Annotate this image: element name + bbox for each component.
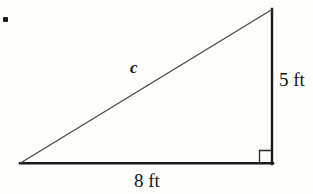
vertical-leg-label: 5 ft <box>279 70 305 89</box>
right-angle-marker <box>260 151 272 163</box>
right-triangle-drawing <box>0 0 313 194</box>
horizontal-leg-label: 8 ft <box>134 171 160 190</box>
hypotenuse-line <box>21 10 273 164</box>
hypotenuse-label: c <box>130 59 138 76</box>
triangle-figure-canvas: c 5 ft 8 ft <box>0 0 313 194</box>
